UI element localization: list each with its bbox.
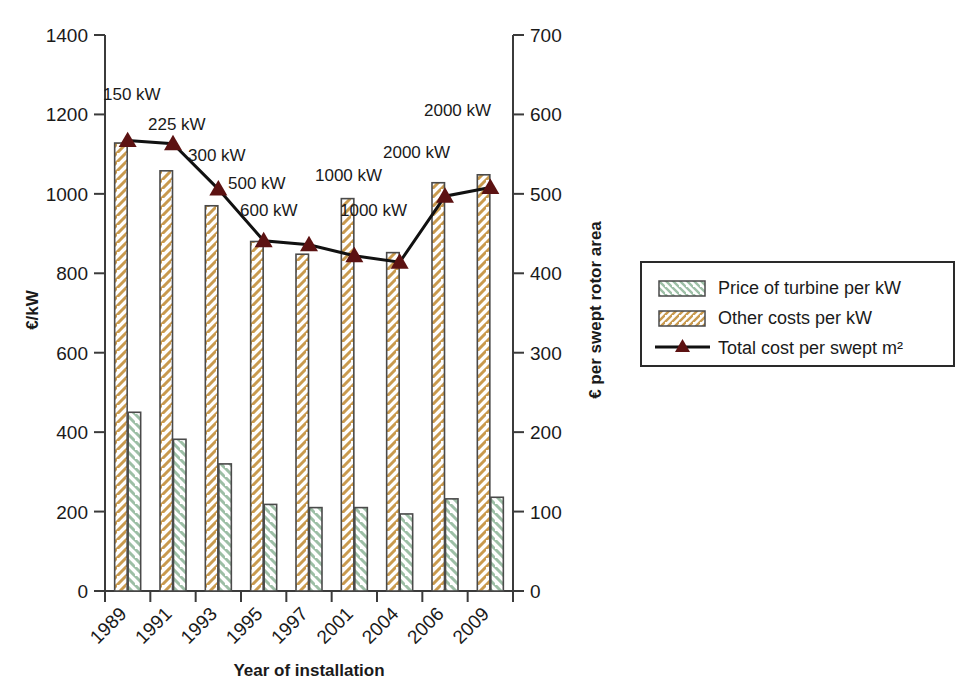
bar-other-costs [115,143,128,591]
x-tick-label: 1997 [267,603,312,648]
bars-turbine-price [128,412,503,591]
left-tick-label: 0 [77,581,88,602]
bar-turbine-price [219,464,232,591]
left-axis: 0200400600800100012001400 €/kW [23,25,105,602]
bar-turbine-price [446,499,459,591]
right-tick-label: 200 [530,422,562,443]
right-tick-label: 300 [530,343,562,364]
x-tick-label: 2004 [358,603,403,648]
x-tick-label: 2001 [312,603,357,648]
capacity-annotation: 600 kW [240,201,298,220]
x-tick-label: 2006 [403,603,448,648]
capacity-annotation: 2000 kW [424,101,491,120]
bar-turbine-price [174,439,187,591]
right-tick-label: 100 [530,502,562,523]
capacity-annotation: 1000 kW [340,201,407,220]
bar-other-costs [477,175,490,591]
right-tick-label: 500 [530,184,562,205]
capacity-annotation: 300 kW [188,146,246,165]
legend-swatch-orange [659,311,705,326]
chart-figure: 0200400600800100012001400 €/kW 010020030… [0,0,970,689]
x-axis-title: Year of installation [233,661,384,680]
bar-turbine-price [310,508,323,591]
chart-svg: 0200400600800100012001400 €/kW 010020030… [0,0,970,689]
bar-other-costs [205,206,218,591]
capacity-annotation: 225 kW [148,115,206,134]
x-tick-label: 1989 [86,603,131,648]
bar-turbine-price [355,508,368,591]
left-tick-label: 400 [56,422,88,443]
legend-label-total-cost: Total cost per swept m² [718,338,903,358]
right-tick-label: 700 [530,25,562,46]
x-axis: 198919911993199519972001200420062009 Yea… [86,591,513,680]
left-tick-label: 1000 [46,184,88,205]
left-tick-label: 800 [56,263,88,284]
right-tick-label: 0 [530,581,541,602]
total-cost-marker [119,132,137,147]
x-tick-label: 1993 [176,603,221,648]
bar-other-costs [160,171,173,591]
x-tick-label: 1991 [131,603,176,648]
bar-turbine-price [400,514,413,591]
legend-label-other-costs: Other costs per kW [718,308,872,328]
right-tick-label: 400 [530,263,562,284]
left-tick-label: 600 [56,343,88,364]
capacity-annotation: 500 kW [228,174,286,193]
capacity-annotation: 2000 kW [383,143,450,162]
x-tick-label: 2009 [448,603,493,648]
bar-turbine-price [128,412,141,591]
legend-item-other-costs[interactable]: Other costs per kW [659,308,872,328]
right-axis-title: € per swept rotor area [586,221,605,399]
left-tick-label: 1200 [46,104,88,125]
legend: Price of turbine per kW Other costs per … [641,262,954,366]
bar-turbine-price [264,504,277,591]
left-tick-label: 1400 [46,25,88,46]
bar-turbine-price [491,497,504,591]
bar-other-costs [251,242,264,591]
right-tick-label: 600 [530,104,562,125]
capacity-annotation: 1000 kW [315,166,382,185]
bar-other-costs [432,183,445,591]
bar-other-costs [387,253,400,591]
legend-swatch-green [659,281,705,296]
legend-label-turbine-price: Price of turbine per kW [718,278,901,298]
x-tick-label: 1995 [222,603,267,648]
x-tick-labels: 198919911993199519972001200420062009 [86,603,493,648]
x-axis-ticks [105,591,513,602]
left-axis-ticks: 0200400600800100012001400 [46,25,105,602]
left-axis-title: €/kW [23,289,42,330]
bar-other-costs [296,254,309,591]
left-tick-label: 200 [56,502,88,523]
legend-item-turbine-price[interactable]: Price of turbine per kW [659,278,901,298]
capacity-annotation: 150 kW [103,85,161,104]
right-axis: 0100200300400500600700 € per swept rotor… [513,25,605,602]
right-axis-ticks: 0100200300400500600700 [513,25,562,602]
